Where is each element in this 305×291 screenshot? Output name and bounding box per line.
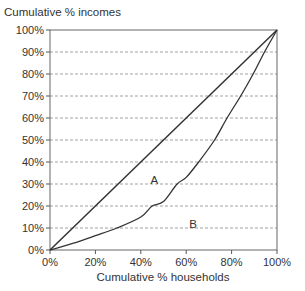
region-label-a: A — [151, 174, 159, 186]
y-tick-label: 80% — [22, 68, 44, 80]
lorenz-curve-chart: 0%10%20%30%40%50%60%70%80%90%100% 0%20%4… — [0, 0, 305, 291]
annotations: AB — [151, 174, 198, 230]
y-tick-label: 10% — [22, 222, 44, 234]
y-axis-title: Cumulative % incomes — [4, 6, 121, 18]
x-axis: 0%20%40%60%80%100% — [42, 30, 291, 268]
y-tick-label: 50% — [22, 134, 44, 146]
y-tick-label: 70% — [22, 90, 44, 102]
x-tick-label: 60% — [175, 256, 197, 268]
y-tick-label: 90% — [22, 46, 44, 58]
x-tick-label: 40% — [130, 256, 152, 268]
y-tick-label: 30% — [22, 178, 44, 190]
y-tick-label: 20% — [22, 200, 44, 212]
y-axis: 0%10%20%30%40%50%60%70%80%90%100% — [16, 24, 50, 256]
y-tick-label: 0% — [28, 244, 44, 256]
x-tick-label: 0% — [42, 256, 58, 268]
x-axis-title: Cumulative % households — [97, 271, 230, 283]
y-tick-label: 60% — [22, 112, 44, 124]
x-tick-label: 20% — [84, 256, 106, 268]
y-tick-label: 40% — [22, 156, 44, 168]
x-tick-label: 100% — [263, 256, 291, 268]
y-tick-label: 100% — [16, 24, 44, 36]
x-tick-label: 80% — [221, 256, 243, 268]
region-label-b: B — [189, 218, 197, 230]
